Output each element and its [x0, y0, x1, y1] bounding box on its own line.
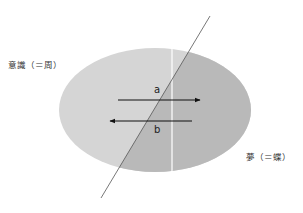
- label-consciousness: 意識（＝周）: [8, 58, 62, 70]
- label-arrow-b: b: [154, 124, 160, 135]
- label-dream: 夢（＝蝶）: [246, 150, 291, 162]
- ellipse-diagram: [0, 0, 303, 213]
- label-arrow-a: a: [154, 84, 160, 95]
